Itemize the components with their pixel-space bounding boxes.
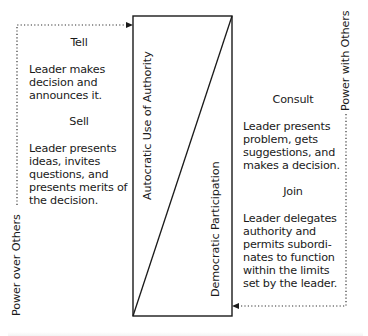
sell-heading: Sell xyxy=(29,115,129,128)
right-column: Consult Leader presents problem, gets su… xyxy=(243,93,343,303)
power-over-others-label: Power over Others xyxy=(10,214,23,316)
join-heading: Join xyxy=(243,185,343,198)
tell-heading: Tell xyxy=(29,36,129,49)
democratic-label: Democratic Participation xyxy=(209,162,222,298)
arrowhead-left-icon xyxy=(232,303,239,309)
tell-description: Leader makes decision and announces it. xyxy=(29,63,129,102)
consult-heading: Consult xyxy=(243,93,343,106)
left-column: Tell Leader makes decision and announces… xyxy=(29,36,129,220)
join-description: Leader delegates authority and permits s… xyxy=(243,212,343,290)
arrowhead-right-icon xyxy=(126,22,133,28)
autocratic-label: Autocratic Use of Authority xyxy=(141,51,154,200)
consult-description: Leader presents problem, gets suggestion… xyxy=(243,120,343,172)
sell-description: Leader presents ideas, invites questions… xyxy=(29,142,129,207)
cropped-caption xyxy=(8,332,363,336)
